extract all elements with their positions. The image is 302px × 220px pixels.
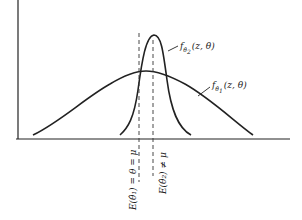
wide-curve-theta1 [33, 71, 253, 135]
label-theta2: fθ̂2(z, θ) [179, 41, 215, 55]
leader-theta1 [198, 87, 210, 96]
label-biased-mean: E(θ̂₂) ≠ μ [158, 152, 168, 195]
estimator-distribution-diagram: fθ̂2(z, θ) fθ̂1(z, θ) E(θ̂₁) = θ = μ E(θ… [0, 0, 302, 220]
label-theta1: fθ̂1(z, θ) [211, 80, 247, 94]
leader-theta2 [168, 46, 178, 51]
label-unbiased-mean: E(θ̂₁) = θ = μ [128, 149, 138, 211]
